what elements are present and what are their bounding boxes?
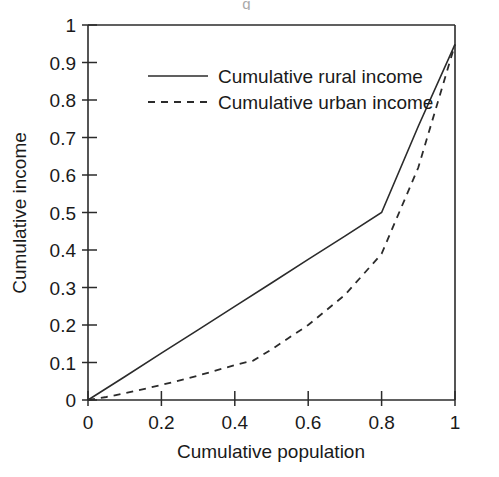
y-axis-title: Cumulative income	[9, 132, 30, 294]
y-tick-label: 0.4	[50, 240, 77, 261]
y-tick-label: 0.6	[50, 165, 76, 186]
x-tick-label: 0.6	[295, 412, 321, 433]
x-tick-label: 0.8	[368, 412, 394, 433]
y-tick-label: 0.8	[50, 90, 76, 111]
lorenz-curve-figure: ˝ ɡ ˝	[0, 0, 499, 477]
x-tick-label: 1	[450, 412, 461, 433]
legend-label-rural: Cumulative rural income	[218, 66, 423, 87]
y-tick-label: 0.5	[50, 203, 76, 224]
y-tick-label: 0.7	[50, 128, 76, 149]
y-tick-label: 0.3	[50, 278, 76, 299]
legend-label-urban: Cumulative urban income	[218, 92, 433, 113]
y-tick-marks	[88, 25, 97, 400]
x-axis-title: Cumulative population	[177, 441, 365, 462]
x-tick-label: 0	[83, 412, 94, 433]
y-tick-labels: 0 0.1 0.2 0.3 0.4 0.5 0.6 0.7 0.8 0.9 1	[50, 15, 77, 411]
y-tick-label: 0.2	[50, 315, 76, 336]
x-tick-labels: 0 0.2 0.4 0.6 0.8 1	[83, 412, 461, 433]
y-tick-marks-outer	[82, 25, 88, 400]
x-tick-marks	[88, 391, 455, 406]
x-tick-label: 0.2	[148, 412, 174, 433]
y-tick-label: 0	[65, 390, 76, 411]
y-tick-label: 1	[65, 15, 76, 36]
chart-canvas: 0 0.1 0.2 0.3 0.4 0.5 0.6 0.7 0.8 0.9 1 …	[0, 0, 499, 477]
legend: Cumulative rural income Cumulative urban…	[148, 66, 433, 113]
y-tick-label: 0.9	[50, 53, 76, 74]
x-tick-label: 0.4	[222, 412, 249, 433]
y-tick-label: 0.1	[50, 353, 76, 374]
